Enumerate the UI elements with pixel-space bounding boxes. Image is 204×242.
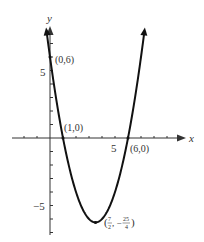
y-tick-label-neg5: −5 — [33, 200, 45, 212]
vertex-label: ( 7 2 , − 25 4 ) — [104, 216, 135, 230]
y-axis-label: y — [46, 12, 52, 24]
y-tick-label-5: 5 — [40, 66, 46, 78]
svg-text:2: 2 — [108, 224, 111, 230]
svg-text:, −: , − — [112, 218, 122, 228]
svg-text:25: 25 — [123, 216, 129, 222]
point-label-0-6: (0,6) — [55, 54, 74, 66]
x-tick-label-5: 5 — [111, 142, 117, 154]
labels-layer: y x 5 −5 5 (0,6) (1,0) (6,0) ( 7 2 , − 2… — [0, 0, 204, 242]
svg-text:): ) — [131, 216, 135, 229]
svg-text:4: 4 — [125, 224, 128, 230]
point-label-6-0: (6,0) — [130, 143, 149, 155]
point-label-1-0: (1,0) — [64, 122, 83, 134]
svg-text:7: 7 — [108, 216, 111, 222]
x-axis-label: x — [188, 132, 194, 144]
